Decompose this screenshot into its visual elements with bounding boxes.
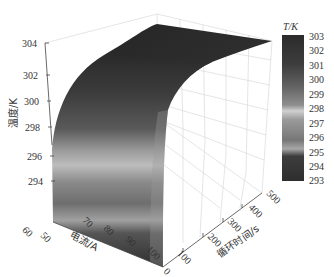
colorbar-tick: 303 — [309, 31, 324, 42]
y-tick: 100 — [175, 248, 193, 266]
y-axis-tick-labels: 0 100 200 300 400 500 — [162, 188, 283, 277]
y-tick: 400 — [247, 202, 265, 220]
z-tick: 304 — [22, 38, 37, 49]
surface-chart: 304 302 300 298 296 294 温度/K 50 60 70 80… — [0, 0, 334, 277]
colorbar-tick: 293 — [309, 175, 324, 186]
colorbar-tick: 298 — [309, 103, 324, 114]
colorbar-gradient — [282, 35, 304, 181]
colorbar-tick: 301 — [309, 60, 324, 71]
colorbar-tick: 294 — [309, 161, 324, 172]
y-tick: 0 — [162, 266, 173, 277]
z-tick: 300 — [24, 96, 39, 107]
x-tick: 50 — [39, 230, 54, 245]
z-tick: 302 — [23, 70, 38, 81]
x-tick: 60 — [20, 224, 35, 239]
z-axis-tick-labels: 304 302 300 298 296 294 — [22, 38, 43, 187]
z-axis-title: 温度/K — [7, 98, 19, 128]
z-tick: 294 — [28, 176, 43, 187]
colorbar-tick: 295 — [309, 147, 324, 158]
colorbar-tick: 297 — [309, 118, 324, 129]
colorbar: T/K 303 302 301 300 299 298 297 296 295 … — [282, 21, 324, 186]
colorbar-tick: 302 — [309, 45, 324, 56]
z-tick: 296 — [27, 151, 42, 162]
colorbar-tick: 299 — [309, 89, 324, 100]
z-tick: 298 — [25, 122, 40, 133]
colorbar-tick: 296 — [309, 132, 324, 143]
colorbar-tick: 300 — [309, 74, 324, 85]
y-tick: 500 — [265, 188, 283, 206]
colorbar-title: T/K — [283, 21, 299, 32]
